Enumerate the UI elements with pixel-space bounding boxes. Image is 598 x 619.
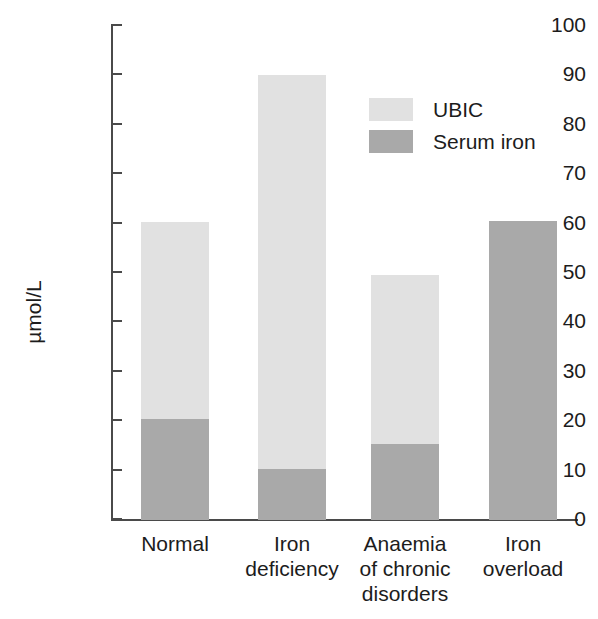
legend-label-serum-iron: Serum iron bbox=[433, 130, 536, 154]
x-axis-label-line: overload bbox=[433, 556, 598, 581]
y-axis-title: µmol/L bbox=[22, 242, 46, 382]
bar-iron-overload bbox=[489, 221, 557, 520]
y-axis-tick bbox=[113, 469, 122, 471]
bar-segment-serum-iron bbox=[489, 221, 557, 520]
legend-item-serum-iron: Serum iron bbox=[369, 130, 536, 153]
y-axis-tick bbox=[113, 271, 122, 273]
y-axis-tick bbox=[113, 123, 122, 125]
x-axis-label-line: disorders bbox=[315, 581, 495, 606]
bar-segment-serum-iron bbox=[141, 419, 209, 520]
legend-swatch-ubic bbox=[369, 98, 413, 121]
bar-anaemia-of-chronic-disorders bbox=[371, 275, 439, 520]
y-axis-tick bbox=[113, 73, 122, 75]
y-axis-tick bbox=[113, 419, 122, 421]
y-axis-tick-label: 100 bbox=[487, 14, 598, 35]
y-axis-tick bbox=[113, 320, 122, 322]
y-axis-tick bbox=[113, 370, 122, 372]
x-axis-label-line: Iron bbox=[433, 531, 598, 556]
y-axis-tick-label: 70 bbox=[487, 162, 598, 183]
y-axis-tick bbox=[113, 518, 122, 520]
bar-segment-ubic bbox=[371, 275, 439, 443]
legend-item-ubic: UBIC bbox=[369, 98, 536, 121]
bar-segment-serum-iron bbox=[258, 469, 326, 520]
y-axis-tick bbox=[113, 24, 122, 26]
y-axis-tick-label: 90 bbox=[487, 63, 598, 84]
bar-normal bbox=[141, 222, 209, 520]
legend-swatch-serum-iron bbox=[369, 130, 413, 153]
bar-segment-ubic bbox=[141, 222, 209, 419]
stacked-bar-chart: µmol/L 0102030405060708090100 NormalIron… bbox=[0, 0, 598, 619]
y-axis-tick bbox=[113, 172, 122, 174]
bar-segment-ubic bbox=[258, 75, 326, 469]
x-axis-category-label: Ironoverload bbox=[433, 531, 598, 581]
bar-iron-deficiency bbox=[258, 75, 326, 520]
legend-label-ubic: UBIC bbox=[433, 98, 483, 122]
y-axis-tick bbox=[113, 222, 122, 224]
bar-segment-serum-iron bbox=[371, 444, 439, 520]
chart-legend: UBIC Serum iron bbox=[369, 98, 536, 162]
